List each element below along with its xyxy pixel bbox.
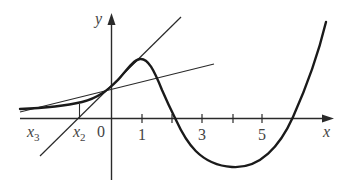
x-tick-label-1: 1 <box>138 127 146 143</box>
diagram-canvas <box>0 0 349 189</box>
function-curve <box>20 22 326 167</box>
x-axis-arrow-icon <box>322 115 334 123</box>
x-tick-label-5: 5 <box>258 127 266 143</box>
axes <box>20 13 334 180</box>
y-axis-arrow-icon <box>108 13 116 25</box>
x-axis-label: x <box>323 124 330 140</box>
x3-label: x3 <box>27 124 40 143</box>
tangent-line-2 <box>20 64 214 112</box>
newton-method-diagram: y x 0 1 3 5 x3 x2 <box>0 0 349 189</box>
x2-label: x2 <box>73 124 86 143</box>
y-axis-label: y <box>95 11 102 27</box>
x-tick-label-3: 3 <box>198 127 206 143</box>
origin-label: 0 <box>97 124 105 140</box>
